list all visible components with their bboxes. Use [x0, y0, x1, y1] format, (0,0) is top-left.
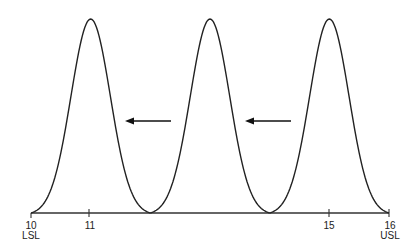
lsl-label: LSL — [22, 231, 40, 241]
tick-label-11: 11 — [85, 221, 95, 231]
tick-label-16: 16 USL — [380, 221, 399, 241]
tick-label-15: 15 — [323, 221, 334, 231]
distribution-curve-right — [270, 19, 389, 213]
tick-value: 11 — [85, 221, 95, 231]
tick-value: 15 — [323, 221, 334, 231]
left-arrow-icon — [245, 118, 291, 125]
usl-label: USL — [380, 231, 399, 241]
distribution-curve-left — [31, 19, 150, 213]
distribution-curve-middle — [150, 19, 269, 213]
left-arrow-icon — [125, 118, 171, 125]
distribution-shift-diagram — [0, 0, 418, 252]
tick-label-10: 10 LSL — [22, 221, 40, 241]
